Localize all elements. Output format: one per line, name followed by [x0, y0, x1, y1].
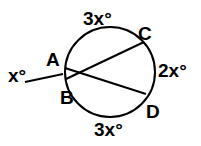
circle-diagram: A B C D 3x° 2x° 3x° x°	[0, 0, 201, 146]
point-a-label: A	[46, 49, 60, 70]
arc-top-label: 3x°	[83, 8, 112, 29]
arc-right-label: 2x°	[158, 60, 187, 81]
arc-bottom-label: 3x°	[94, 119, 123, 140]
angle-label: x°	[8, 65, 26, 86]
chord-ad	[65, 68, 146, 94]
chord-bc	[66, 42, 144, 79]
point-c-label: C	[138, 23, 152, 44]
point-d-label: D	[146, 101, 160, 122]
point-b-label: B	[60, 87, 74, 108]
tangent-line	[25, 74, 63, 82]
